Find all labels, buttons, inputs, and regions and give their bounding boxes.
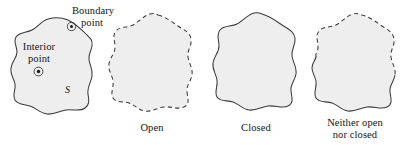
panel-open-shape	[109, 14, 192, 112]
interior-point-label-line1: Interior	[23, 41, 55, 53]
panel-set-s-shape	[11, 18, 92, 115]
caption-neither-line2: nor closed	[327, 129, 383, 141]
caption-closed: Closed	[241, 122, 271, 134]
caption-open: Open	[140, 122, 163, 134]
boundary-point-label-line2: point	[81, 17, 114, 29]
interior-point-label: Interior point	[23, 41, 55, 64]
boundary-point-label-line1: Boundary	[72, 5, 114, 17]
caption-neither-line1: Neither open	[327, 117, 383, 129]
open-region-fill	[109, 14, 192, 112]
panel-neither-shape	[312, 14, 395, 112]
set-label-s: S	[65, 84, 70, 96]
topology-figure: Boundary point Interior point S Open Clo…	[0, 0, 401, 145]
caption-neither: Neither open nor closed	[327, 117, 383, 140]
set-s-region-fill	[11, 18, 92, 115]
boundary-point-label: Boundary point	[72, 5, 114, 28]
interior-point-label-line2: point	[23, 53, 55, 65]
panel-closed-shape	[213, 13, 296, 111]
